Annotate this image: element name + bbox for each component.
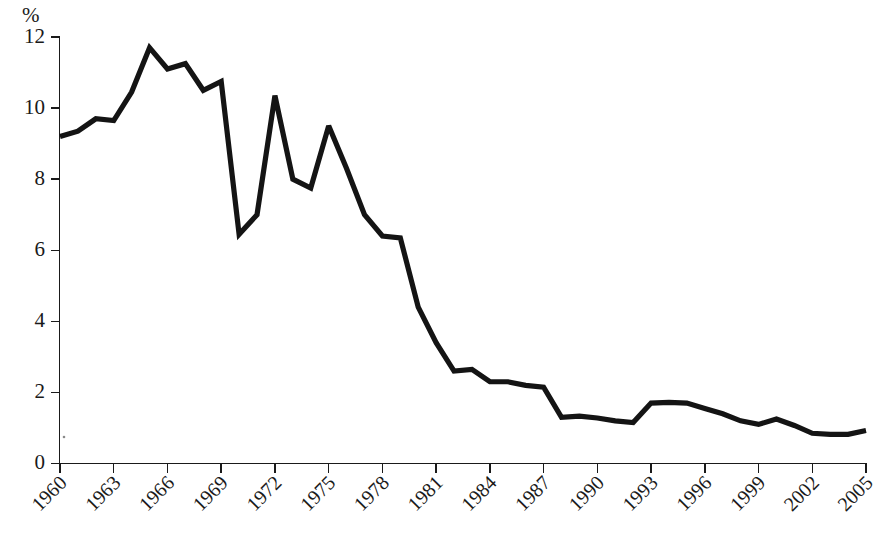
x-tick-label: 1984 — [457, 471, 501, 515]
x-tick-label: 1990 — [564, 471, 608, 515]
line-chart-canvas: % 024681012 1960196319661969197219751978… — [0, 0, 882, 535]
y-tick-label: 10 — [24, 95, 45, 119]
x-tick-label: 2002 — [779, 471, 823, 515]
x-tick-label: 1978 — [349, 471, 393, 515]
x-tick-label: 2005 — [833, 471, 877, 515]
x-axis-tick-labels: 1960196319661969197219751978198119841987… — [27, 471, 877, 515]
x-tick-label: 1999 — [726, 471, 770, 515]
x-tick-label: 1969 — [188, 471, 232, 515]
y-tick-label: 8 — [35, 166, 46, 190]
scan-artifact-speck — [63, 436, 66, 439]
x-tick-label: 1975 — [296, 471, 340, 515]
x-tick-label: 1966 — [134, 471, 178, 515]
x-tick-label: 1963 — [81, 471, 125, 515]
y-axis-tick-labels: 024681012 — [24, 24, 46, 475]
x-tick-label: 1987 — [511, 471, 555, 515]
y-tick-label: 6 — [35, 237, 46, 261]
y-tick-label: 2 — [35, 379, 46, 403]
y-tick-label: 4 — [35, 308, 46, 332]
x-axis-ticks — [60, 464, 866, 474]
chart-figure: % 024681012 1960196319661969197219751978… — [0, 0, 882, 535]
y-axis-ticks — [51, 37, 60, 464]
x-tick-label: 1993 — [618, 471, 662, 515]
y-tick-label: 12 — [24, 24, 45, 48]
y-tick-label: 0 — [35, 450, 46, 474]
x-tick-label: 1996 — [672, 471, 716, 515]
x-tick-label: 1960 — [27, 471, 71, 515]
x-tick-label: 1981 — [403, 471, 447, 515]
data-series-line — [60, 48, 866, 435]
x-tick-label: 1972 — [242, 471, 286, 515]
